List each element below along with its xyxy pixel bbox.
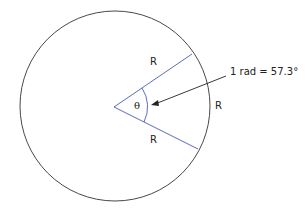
radian-diagram <box>0 0 305 213</box>
label-annotation: 1 rad = 57.3° <box>230 66 298 77</box>
label-arc: R <box>215 100 222 111</box>
label-radius-upper: R <box>150 56 157 67</box>
label-angle: θ <box>134 100 140 111</box>
arrowhead-icon <box>151 100 159 106</box>
label-radius-lower: R <box>150 134 157 145</box>
angle-arc <box>142 88 148 122</box>
